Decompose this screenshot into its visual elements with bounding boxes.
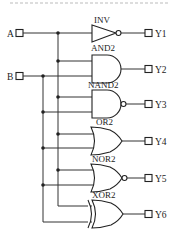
and-gate-icon [92, 55, 121, 83]
output-y2: Y2 [145, 65, 167, 75]
output-y6-label: Y6 [155, 210, 167, 220]
output-y4: Y4 [145, 137, 167, 147]
gate-inv-label: INV [94, 15, 110, 25]
logic-circuit-diagram: A B INV [0, 0, 178, 236]
output-y3-pin-icon [145, 101, 152, 108]
gate-nand2: NAND2 [88, 80, 145, 118]
inversion-bubble-icon [121, 102, 126, 107]
gate-nor2-label: NOR2 [92, 154, 116, 164]
output-y3-label: Y3 [155, 100, 167, 110]
net-a [23, 31, 95, 206]
input-b: B [7, 72, 23, 82]
output-y5-pin-icon [145, 175, 152, 182]
inverter-icon [92, 25, 116, 42]
gate-and2-label: AND2 [91, 43, 115, 53]
output-y6-pin-icon [145, 211, 152, 218]
gate-inv: INV [92, 15, 145, 42]
output-y2-label: Y2 [155, 65, 167, 75]
gate-or2: OR2 [91, 117, 145, 155]
output-y1-label: Y1 [155, 29, 167, 39]
input-b-label: B [7, 72, 13, 82]
output-y5: Y5 [145, 174, 167, 184]
input-a-pin-icon [16, 30, 23, 37]
output-y4-pin-icon [145, 138, 152, 145]
nand-gate-icon [92, 90, 121, 118]
gate-nor2: NOR2 [91, 154, 145, 192]
output-y3: Y3 [145, 100, 167, 110]
or-gate-icon [91, 127, 122, 155]
input-a-label: A [7, 29, 14, 39]
output-y1: Y1 [145, 29, 167, 39]
output-y6: Y6 [145, 210, 167, 220]
inversion-bubble-icon [116, 31, 121, 36]
inversion-bubble-icon [122, 176, 127, 181]
output-y5-label: Y5 [155, 174, 167, 184]
output-y4-label: Y4 [155, 137, 167, 147]
gate-xor2: XOR2 [88, 190, 145, 228]
input-a: A [7, 29, 23, 39]
nor-gate-icon [91, 164, 122, 192]
xor-extra-arc-icon [88, 200, 92, 228]
xor-gate-icon [92, 200, 123, 228]
input-b-pin-icon [16, 73, 23, 80]
gate-nand2-label: NAND2 [88, 80, 119, 90]
output-y2-pin-icon [145, 66, 152, 73]
output-y1-pin-icon [145, 30, 152, 37]
gate-xor2-label: XOR2 [92, 190, 116, 200]
gate-or2-label: OR2 [96, 117, 113, 127]
gate-and2: AND2 [91, 43, 145, 83]
